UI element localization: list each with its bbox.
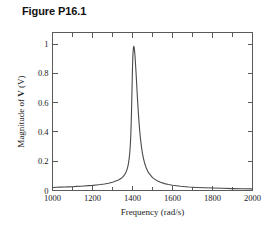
x-axis-title-text: Frequency (rad/s) — [121, 207, 185, 217]
y-tick-label: 0.8 — [38, 68, 49, 78]
x-axis-tick-labels: 100012001400160018002000 — [44, 193, 261, 203]
y-tick-label: 0 — [44, 186, 48, 196]
y-axis-title: Magnitude of V (V) — [16, 75, 26, 147]
y-tick-label: 0.4 — [38, 127, 49, 137]
y-tick-label: 0.6 — [38, 98, 49, 108]
x-tick-label: 1800 — [204, 193, 221, 203]
data-curve — [53, 46, 253, 188]
plot-frame — [53, 33, 253, 191]
resonance-chart: 100012001400160018002000 00.20.40.60.81 … — [0, 0, 272, 231]
x-axis-ticks — [73, 33, 233, 191]
x-tick-label: 1400 — [124, 193, 141, 203]
y-axis-ticks — [53, 44, 253, 161]
y-tick-label: 1 — [44, 39, 48, 49]
y-tick-label: 0.2 — [38, 156, 49, 166]
y-axis-title-text: Magnitude of V (V) — [16, 75, 26, 147]
x-tick-label: 1200 — [84, 193, 101, 203]
y-axis-tick-labels: 00.20.40.60.81 — [38, 39, 49, 195]
x-axis-title: Frequency (rad/s) — [121, 207, 185, 217]
x-tick-label: 2000 — [244, 193, 261, 203]
x-tick-label: 1600 — [164, 193, 181, 203]
